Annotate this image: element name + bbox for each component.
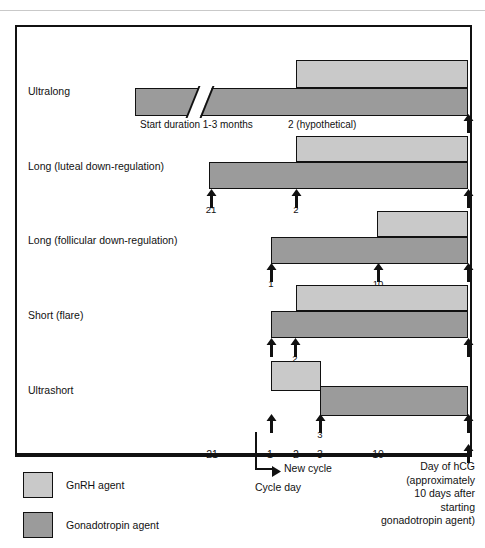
legend-swatch-gnrh [23, 472, 53, 498]
arrow-label-day3-ultrashort: 3 [309, 429, 331, 440]
diagram-stage: Ultralong Start duration 1-3 months 2 (h… [0, 0, 485, 548]
arrow-hcg-ultralong [463, 114, 474, 133]
protocol-label-long-follicular: Long (follicular down-regulation) [28, 234, 177, 246]
note-ultralong-hypothetical: 2 (hypothetical) [288, 119, 356, 130]
bar-gnrh-short-flare [296, 285, 468, 311]
axis-tick-1: 1 [257, 448, 283, 460]
arrow-hcg-short-flare [463, 338, 474, 357]
cycle-day-label: Cycle day [255, 481, 301, 493]
arrow-day1-short-flare [266, 338, 277, 357]
protocol-label-long-luteal: Long (luteal down-regulation) [28, 160, 164, 172]
bar-gonadotropin-ultrashort [320, 386, 468, 416]
bar-gnrh-long-luteal [296, 136, 468, 162]
arrow-day1-ultrashort [266, 414, 277, 433]
bar-gnrh-long-follicular [377, 211, 468, 237]
axis-tick-21: 21 [199, 448, 225, 460]
axis-tick-3: 3 [307, 448, 333, 460]
axis-tick-10: 10 [365, 448, 391, 460]
protocol-label-ultralong: Ultralong [28, 85, 70, 97]
protocol-label-short-flare: Short (flare) [28, 309, 83, 321]
bar-gonadotropin-long-follicular [271, 237, 468, 264]
axis-tick-2: 2 [283, 448, 309, 460]
protocol-label-ultrashort: Ultrashort [28, 384, 74, 396]
legend-label-gnrh: GnRH agent [66, 479, 124, 491]
hcg-caption-line-5: gonadotropin agent) [325, 514, 475, 528]
hcg-caption-line-1: Day of hCG [325, 460, 475, 474]
arrow-hcg-ultrashort [463, 414, 474, 433]
note-ultralong-start-duration: Start duration 1-3 months [140, 119, 253, 130]
arrow-label-day21-long-luteal: 21 [200, 204, 222, 215]
arrow-hcg-long-follicular [463, 263, 474, 282]
bar-gonadotropin-long-luteal [209, 162, 468, 189]
arrow-label-day2-long-luteal: 2 [285, 204, 307, 215]
new-cycle-arrowhead-icon [272, 463, 281, 481]
axis-baseline [15, 455, 472, 457]
arrow-hcg-long-luteal [463, 189, 474, 208]
hcg-caption: Day of hCG (approximately 10 days after … [325, 460, 475, 528]
arrow-label-day1-long-follicular: 1 [260, 278, 282, 289]
legend-label-gonadotropin: Gonadotropin agent [66, 519, 159, 531]
hcg-caption-line-2: (approximately [325, 474, 475, 488]
bar-gnrh-ultrashort [271, 361, 321, 391]
bar-gonadotropin-ultralong [135, 88, 468, 116]
legend-swatch-gonadotropin [23, 512, 53, 538]
bar-gnrh-ultralong [296, 60, 468, 88]
hcg-caption-line-3: 10 days after [325, 487, 475, 501]
bar-gonadotropin-short-flare [271, 311, 468, 338]
hcg-caption-line-4: starting [325, 501, 475, 515]
